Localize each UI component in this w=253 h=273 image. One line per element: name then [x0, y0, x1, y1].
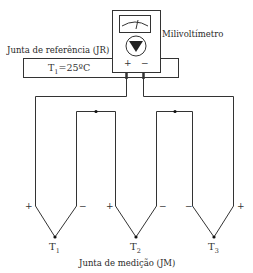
junction-dot-t2 — [134, 235, 137, 238]
millivoltmeter-label: Milivoltímetro — [162, 29, 223, 39]
connection-dot-1 — [94, 110, 97, 113]
t3-left-polarity: − — [185, 202, 193, 211]
meter-terminal-negative: − — [141, 59, 149, 68]
positive-lead-wire — [36, 79, 127, 237]
t2-right-polarity: − — [159, 202, 167, 211]
t2-left-polarity: + — [106, 202, 114, 211]
wire-t2-t3 — [136, 112, 214, 238]
thermocouple-t2-label: T2 — [130, 242, 141, 255]
reference-junction-label: Junta de referência (JR) — [7, 45, 109, 55]
junction-dot-t3 — [212, 235, 215, 238]
connection-dot-2 — [173, 110, 176, 113]
wire-t1-t2 — [55, 112, 136, 238]
thermocouple-t1-label: T1 — [49, 242, 60, 255]
junction-dot-t1 — [53, 235, 56, 238]
reference-temperature: T1=25ºC — [48, 63, 90, 75]
t1-left-polarity: + — [25, 202, 33, 211]
t3-right-polarity: + — [237, 202, 245, 211]
measurement-junction-label: Junta de medição (JM) — [79, 258, 175, 268]
thermocouple-circuit-diagram — [0, 0, 253, 273]
thermocouple-t3-label: T3 — [208, 242, 219, 255]
t1-right-polarity: − — [79, 202, 87, 211]
meter-terminal-positive: + — [124, 59, 132, 68]
